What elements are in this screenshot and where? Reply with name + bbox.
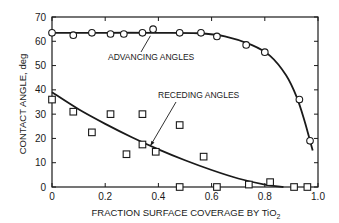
advancing-point-circle: [107, 31, 114, 38]
advancing-point-circle: [262, 49, 269, 56]
y-tick-label: 20: [35, 133, 47, 144]
y-tick-label: 30: [35, 109, 47, 120]
receding-arrow: [150, 102, 176, 146]
receding-point-square: [176, 184, 183, 191]
annotations: ADVANCING ANGLESRECEDING ANGLES: [108, 36, 240, 146]
y-tick-label: 60: [35, 36, 47, 47]
advancing-point-circle: [150, 26, 157, 33]
advancing-angles-label: ADVANCING ANGLES: [108, 52, 195, 62]
receding-point-square: [291, 184, 298, 191]
receding-point-square: [139, 141, 146, 148]
receding-arrowhead: [150, 141, 154, 146]
x-tick-label: 1.0: [311, 191, 325, 202]
receding-point-square: [70, 108, 77, 115]
advancing-point-circle: [296, 96, 303, 103]
advancing-point-circle: [89, 29, 96, 36]
receding-point-square: [304, 184, 311, 191]
receding-point-square: [123, 151, 130, 158]
receding-point-square: [152, 148, 159, 155]
receding-angles-label: RECEDING ANGLES: [158, 90, 240, 100]
advancing-point-circle: [307, 138, 314, 145]
x-axis-label: FRACTION SURFACE COVERAGE BY TiO2: [91, 207, 280, 220]
receding-curve: [52, 92, 283, 187]
x-tick-label: 0.8: [258, 191, 272, 202]
receding-point-square: [200, 153, 207, 160]
y-tick-label: 50: [35, 60, 47, 71]
advancing-point-circle: [243, 42, 250, 49]
x-tick-label: 0.4: [151, 191, 165, 202]
receding-point-square: [49, 96, 56, 103]
advancing-arrow: [141, 36, 150, 52]
receding-point-square: [139, 111, 146, 118]
plot-frame: [52, 17, 318, 187]
advancing-point-circle: [121, 31, 128, 38]
receding-point-square: [267, 179, 274, 186]
y-axis-ticks: 010203040506070: [35, 12, 318, 193]
contact-angle-chart: 010203040506070 00.20.40.60.81.0 ADVANCI…: [0, 0, 339, 223]
advancing-point-circle: [198, 29, 205, 36]
y-tick-label: 40: [35, 84, 47, 95]
x-tick-label: 0.2: [98, 191, 112, 202]
x-tick-label: 0.6: [205, 191, 219, 202]
receding-point-square: [246, 181, 253, 188]
y-tick-label: 0: [40, 182, 46, 193]
advancing-point-circle: [49, 29, 56, 36]
receding-point-square: [176, 122, 183, 129]
plot-axes: [52, 17, 318, 187]
y-tick-label: 70: [35, 12, 47, 23]
advancing-point-circle: [176, 29, 183, 36]
data-points: [49, 26, 314, 190]
y-tick-label: 10: [35, 157, 47, 168]
receding-point-square: [89, 129, 96, 136]
receding-point-square: [214, 184, 221, 191]
advancing-point-circle: [214, 33, 221, 40]
receding-point-square: [107, 111, 114, 118]
x-axis-ticks: 00.20.40.60.81.0: [49, 17, 325, 202]
advancing-point-circle: [139, 29, 146, 36]
advancing-point-circle: [70, 32, 77, 39]
y-axis-label: CONTACT ANGLE, deg: [17, 54, 28, 155]
x-tick-label: 0: [49, 191, 55, 202]
